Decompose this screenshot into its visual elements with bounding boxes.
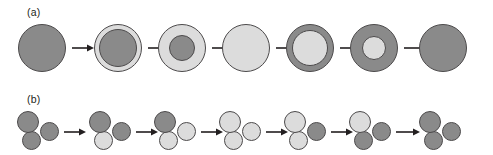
panel-a-stage-7 bbox=[419, 18, 467, 80]
panel-b-stage-6-lobe-bottom-left-dark bbox=[354, 131, 373, 150]
arrow-b-1 bbox=[64, 127, 86, 137]
panel-a-stage-3-core-dark bbox=[169, 35, 195, 61]
arrow-b-5 bbox=[331, 127, 353, 137]
panel-b-stage-5-lobe-top-left-light bbox=[284, 111, 306, 133]
panel-b-stage-3 bbox=[151, 110, 199, 152]
panel-b-stage-6-lobe-right-dark bbox=[372, 122, 391, 141]
panel-b-stage-1-lobe-right-dark bbox=[40, 122, 59, 141]
panel-b-stage-6-lobe-top-left-light bbox=[349, 111, 371, 133]
panel-b-stage-7-lobe-bottom-left-dark bbox=[424, 131, 443, 150]
panel-b-sequence bbox=[0, 110, 493, 152]
panel-b-stage-5 bbox=[281, 110, 329, 152]
panel-b-stage-4 bbox=[216, 110, 264, 152]
panel-b-label: (b) bbox=[27, 93, 40, 105]
panel-b-stage-5-lobe-right-dark bbox=[307, 122, 326, 141]
panel-b-stage-7 bbox=[416, 110, 464, 152]
panel-b-stage-3-lobe-right-light bbox=[177, 122, 196, 141]
panel-b-stage-2-lobe-top-left-dark bbox=[89, 111, 111, 133]
arrow-b-3 bbox=[201, 127, 223, 137]
panel-a-stage-4-core-light bbox=[222, 24, 270, 72]
arrow-b-4 bbox=[266, 127, 288, 137]
panel-a-stage-7-core-dark bbox=[419, 24, 467, 72]
panel-b-stage-4-lobe-top-left-light bbox=[219, 111, 241, 133]
panel-b-stage-5-lobe-bottom-left-light bbox=[289, 131, 308, 150]
panel-a-stage-2-core-dark bbox=[99, 29, 137, 67]
panel-a-stage-1 bbox=[18, 18, 66, 80]
panel-b-stage-1 bbox=[14, 110, 62, 152]
arrow-a-1 bbox=[72, 43, 94, 53]
panel-b-stage-3-lobe-bottom-left-light bbox=[159, 131, 178, 150]
panel-b-stage-6 bbox=[346, 110, 394, 152]
panel-a-stage-5 bbox=[286, 18, 334, 80]
panel-a-label: (a) bbox=[27, 6, 40, 18]
panel-b-stage-7-lobe-top-left-dark bbox=[419, 111, 441, 133]
panel-b-stage-2-lobe-bottom-left-light bbox=[94, 131, 113, 150]
arrow-b-6 bbox=[396, 127, 420, 137]
panel-b-stage-1-lobe-top-left-dark bbox=[17, 111, 39, 133]
panel-a-stage-6 bbox=[350, 18, 398, 80]
panel-a-stage-6-core-light bbox=[362, 36, 386, 60]
panel-a-stage-2 bbox=[94, 18, 142, 80]
arrow-b-2 bbox=[136, 127, 158, 137]
panel-b-stage-4-lobe-bottom-left-light bbox=[224, 131, 243, 150]
panel-a-sequence bbox=[0, 18, 493, 80]
panel-a-stage-4 bbox=[222, 18, 270, 80]
panel-b-stage-2 bbox=[86, 110, 134, 152]
panel-b-stage-4-lobe-right-light bbox=[242, 122, 261, 141]
panel-b-stage-2-lobe-right-dark bbox=[112, 122, 131, 141]
panel-b-stage-3-lobe-top-left-dark bbox=[154, 111, 176, 133]
figure-canvas: (a) (b) bbox=[0, 0, 493, 155]
panel-a-stage-3 bbox=[158, 18, 206, 80]
panel-b-stage-1-lobe-bottom-left-dark bbox=[22, 131, 41, 150]
panel-a-stage-1-core-dark bbox=[18, 24, 66, 72]
panel-b-stage-7-lobe-right-dark bbox=[442, 122, 461, 141]
panel-a-stage-5-core-light bbox=[292, 30, 328, 66]
